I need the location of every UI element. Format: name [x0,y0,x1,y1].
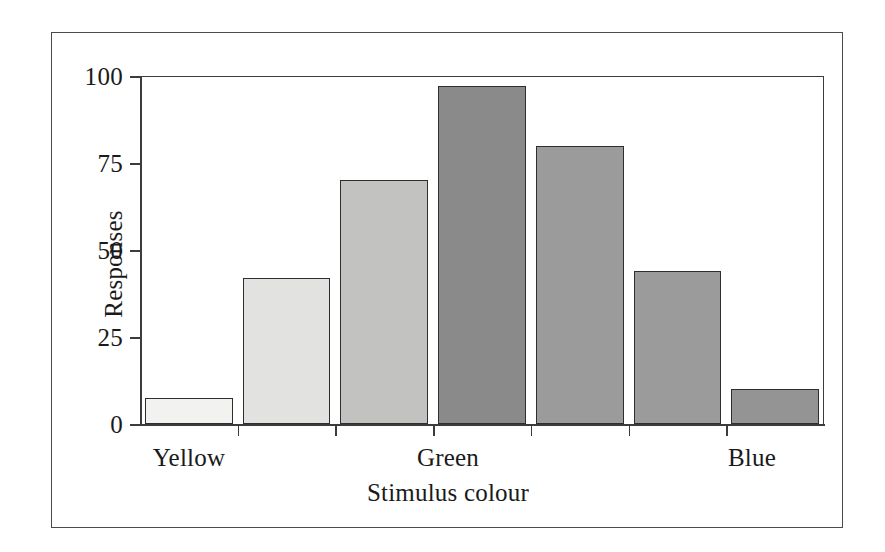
y-axis-title: Responses [100,154,128,374]
x-label-green: Green [417,445,479,470]
x-label-yellow: Yellow [153,445,225,470]
bar-6 [731,389,819,424]
x-label-blue: Blue [728,445,776,470]
x-tick-1 [335,424,337,436]
figure-frame: 100 75 50 25 0 Responses Yellow Green Bl… [51,32,843,528]
y-tick-label-0: 0 [110,412,123,437]
bar-3 [438,86,526,424]
y-tick-label-100: 100 [85,64,123,89]
bar-chart: 100 75 50 25 0 Responses Yellow Green Bl… [52,33,844,529]
x-tick-2 [433,424,435,436]
bar-4 [536,146,624,424]
x-tick-0 [238,424,240,436]
x-tick-5 [726,424,728,436]
x-axis-title: Stimulus colour [52,480,844,505]
x-tick-4 [629,424,631,436]
x-axis-line [140,424,825,426]
bar-1 [243,278,331,424]
bar-5 [634,271,722,424]
bars-layer [140,76,824,424]
bar-2 [340,180,428,424]
x-tick-3 [531,424,533,436]
bar-0 [145,398,233,424]
y-tick-0: 0 [130,424,141,426]
